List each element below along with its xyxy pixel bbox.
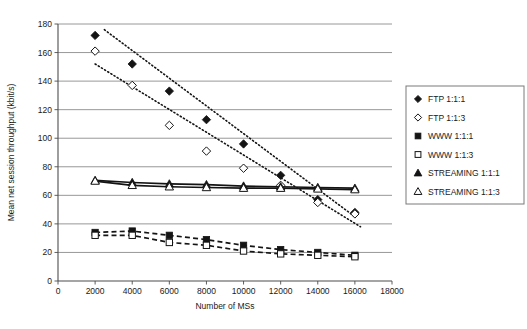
- x-axis-tick-label: 10000: [232, 286, 256, 296]
- y-axis-tick-label: 0: [47, 276, 52, 286]
- data-point-open-square: [166, 239, 172, 245]
- x-axis-tick-label: 14000: [306, 286, 330, 296]
- data-point-filled-diamond: [202, 115, 210, 123]
- data-point-open-diamond: [91, 47, 99, 55]
- x-axis-tick-label: 12000: [269, 286, 293, 296]
- data-point-open-square: [277, 251, 283, 257]
- data-point-open-square: [203, 242, 209, 248]
- data-point-filled-square: [166, 232, 172, 238]
- data-point-open-diamond: [202, 147, 210, 155]
- data-point-open-square: [240, 248, 246, 254]
- y-axis-tick-label: 160: [38, 48, 52, 58]
- x-axis-title: Number of MSs: [195, 301, 254, 311]
- y-axis-tick-label: 40: [43, 219, 53, 229]
- x-axis-tick-label: 18000: [380, 286, 404, 296]
- x-axis-tick-label: 2000: [86, 286, 105, 296]
- data-point-filled-diamond: [239, 140, 247, 148]
- data-point-open-square: [352, 254, 358, 260]
- y-axis-tick-label: 80: [43, 162, 53, 172]
- y-axis-tick-label: 140: [38, 76, 52, 86]
- legend-item-streaming-1-1-3[interactable]: [408, 183, 522, 201]
- chart-figure: 0204060801001201401601800200040006000800…: [0, 0, 527, 329]
- data-point-filled-diamond: [91, 31, 99, 39]
- legend-item-ftp-1-1-1[interactable]: [408, 90, 522, 108]
- x-axis-tick-label: 6000: [160, 286, 179, 296]
- y-axis-tick-label: 20: [43, 247, 53, 257]
- data-point-filled-diamond: [128, 60, 136, 68]
- data-point-open-square: [92, 232, 98, 238]
- y-axis-tick-label: 100: [38, 133, 52, 143]
- data-point-open-square: [315, 252, 321, 258]
- x-axis-tick-label: 0: [56, 286, 61, 296]
- x-axis-tick-label: 16000: [343, 286, 367, 296]
- data-point-open-diamond: [239, 164, 247, 172]
- data-point-filled-diamond: [276, 171, 284, 179]
- y-axis-tick-label: 60: [43, 190, 53, 200]
- legend-item-streaming-1-1-1[interactable]: [408, 164, 522, 182]
- y-axis-title: Mean net session throughput (kbit/s): [6, 84, 16, 222]
- legend-item-ftp-1-1-3[interactable]: [408, 109, 522, 127]
- legend-item-www-1-1-1[interactable]: [408, 127, 522, 145]
- x-axis-tick-label: 4000: [123, 286, 142, 296]
- y-axis-tick-label: 180: [38, 19, 52, 29]
- data-point-filled-diamond: [165, 87, 173, 95]
- y-axis-tick-label: 120: [38, 105, 52, 115]
- data-point-open-square: [129, 232, 135, 238]
- legend-item-www-1-1-3[interactable]: [408, 146, 522, 164]
- data-point-open-diamond: [128, 81, 136, 89]
- x-axis-tick-label: 8000: [197, 286, 216, 296]
- data-point-open-diamond: [165, 121, 173, 129]
- chart-plot-area: 0204060801001201401601800200040006000800…: [0, 0, 527, 329]
